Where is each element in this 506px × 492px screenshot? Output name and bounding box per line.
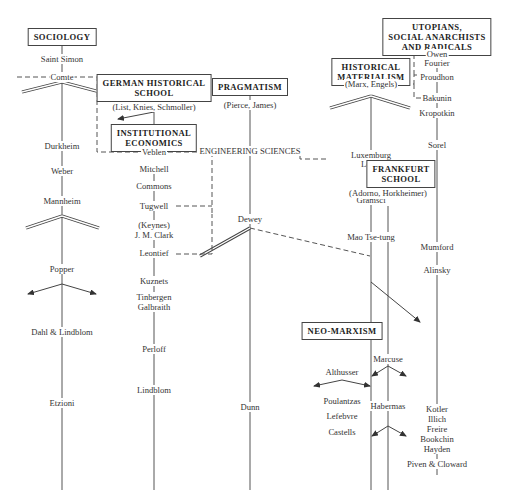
marcuse-label: Marcuse [372,354,404,364]
commons-label: Commons [135,181,172,191]
frankfurt-school-box: FRANKFURT SCHOOL [366,160,435,188]
frankfurt-members-label: (Adorno, Horkheimer) [348,188,428,198]
mitchell-label: Mitchell [138,164,169,174]
dewey-label: Dewey [237,214,263,224]
saint-simon-label: Saint Simon [40,54,84,64]
german-members-label: (List, Knies, Schmoller) [111,102,196,112]
german-historical-school-box: GERMAN HISTORICAL SCHOOL [97,74,212,102]
galbraith-label: Galbraith [137,302,171,312]
freire-label: Freire [426,424,449,434]
althusser-label: Althusser [325,367,360,377]
etzioni-label: Etzioni [49,398,76,408]
hayden-label: Hayden [423,444,452,454]
weber-label: Weber [50,166,74,176]
sorel-label: Sorel [427,140,447,150]
lefebvre-label: Lefebvre [325,411,358,421]
leontief-label: Leontief [138,248,169,258]
popper-label: Popper [49,264,75,274]
lindblom-label: Lindblom [136,385,172,395]
durkheim-label: Durkheim [44,141,81,151]
bookchin-label: Bookchin [419,434,454,444]
kotler-label: Kotler [425,404,449,414]
sociology-box: SOCIOLOGY [28,28,97,46]
jm-clark-label: J. M. Clark [134,230,175,240]
comte-label: Comte [50,72,75,82]
kuznets-label: Kuznets [139,276,169,286]
mao-label: Mao Tse-tung [346,232,396,242]
poulantzas-label: Poulantzas [322,396,361,406]
bakunin-label: Bakunin [421,93,452,103]
veblen-label: Veblen [141,147,167,157]
marx-members-label: (Marx, Engels) [344,79,398,89]
engineering-sciences-label: ENGINEERING SCIENCES [199,146,302,156]
dunn-label: Dunn [239,402,260,412]
piven-cloward-label: Piven & Cloward [406,459,468,469]
pragmatism-box: PRAGMATISM [212,78,288,96]
proudhon-label: Proudhon [419,72,454,82]
illich-label: Illich [427,414,447,424]
neo-marxism-box: NEO-MARXISM [302,322,383,340]
pragmatism-members-label: (Pierce, James) [223,100,278,110]
alinsky-label: Alinsky [422,265,451,275]
castells-label: Castells [327,427,356,437]
mannheim-label: Mannheim [42,196,81,206]
kropotkin-label: Kropotkin [418,108,455,118]
habermas-label: Habermas [370,401,407,411]
planning-traditions-diagram: SOCIOLOGY Saint Simon Comte Durkheim Web… [0,0,506,492]
keynes-label: (Keynes) [137,220,171,230]
tinbergen-label: Tinbergen [136,292,173,302]
perloff-label: Perloff [141,344,167,354]
fourier-label: Fourier [423,58,450,68]
dahl-lindblom-label: Dahl & Lindblom [30,327,94,337]
mumford-label: Mumford [420,242,455,252]
tugwell-label: Tugwell [139,201,169,211]
